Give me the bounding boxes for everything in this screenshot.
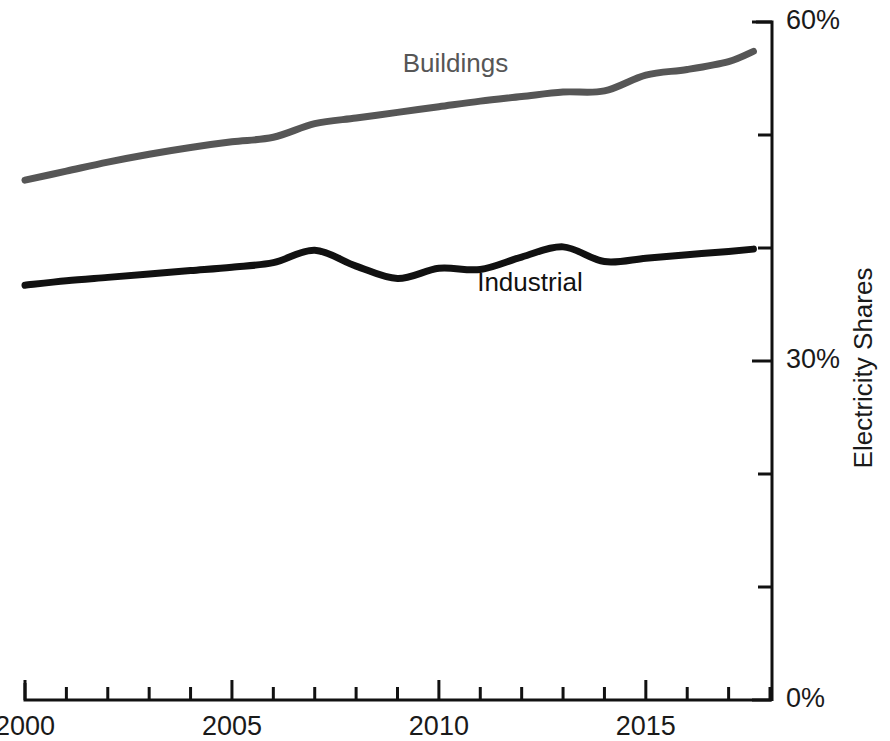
x-tick-label: 2005 — [202, 711, 262, 741]
y-axis-ticks — [752, 22, 772, 700]
series-inline-labels: BuildingsIndustrial — [403, 48, 583, 297]
y-axis-tick-labels: 60%30%0% — [786, 5, 840, 713]
x-axis-ticks — [25, 680, 770, 700]
series-label-industrial: Industrial — [477, 267, 583, 297]
x-tick-label: 2015 — [616, 711, 676, 741]
series-line-buildings — [25, 51, 753, 180]
x-tick-label: 2000 — [0, 711, 55, 741]
series-line-industrial — [25, 247, 753, 285]
y-axis-title: Electricity Shares — [848, 268, 878, 469]
y-tick-label: 0% — [786, 683, 825, 713]
y-tick-label: 30% — [786, 344, 840, 374]
series-label-buildings: Buildings — [403, 48, 509, 78]
x-tick-label: 2010 — [409, 711, 469, 741]
series-lines — [25, 51, 753, 285]
y-tick-label: 60% — [786, 5, 840, 35]
line-chart: 2000200520102015 60%30%0% BuildingsIndus… — [0, 0, 890, 741]
chart-container: 2000200520102015 60%30%0% BuildingsIndus… — [0, 0, 890, 741]
x-axis-tick-labels: 2000200520102015 — [0, 711, 676, 741]
